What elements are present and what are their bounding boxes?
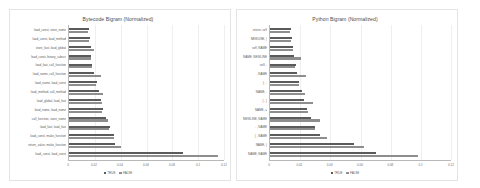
y-axis-label: load_fast, call_function [12, 62, 66, 71]
y-axis-label: NAME, = [239, 106, 267, 115]
bar-false [69, 119, 108, 121]
y-axis-label: store_fast, load_global [12, 44, 66, 53]
legend-bytecode: TRUE FALSE [12, 171, 224, 178]
x-axis-tick-label: 0.04 [117, 163, 123, 167]
y-axis-label: ( , NAME [239, 132, 267, 141]
y-axis-label: , NAME [239, 70, 267, 79]
bar-true [69, 37, 90, 39]
bar-group [69, 115, 224, 124]
bar-group [270, 26, 451, 35]
y-axis-label: load_name, load_name [12, 106, 66, 115]
bar-true [270, 134, 320, 136]
bar-group [270, 44, 451, 53]
bar-true [69, 72, 94, 74]
x-axis-tick-label: 0.06 [357, 163, 363, 167]
bar-group [270, 53, 451, 62]
bar-false [69, 84, 96, 86]
x-axis-tick-label: 0.06 [143, 163, 149, 167]
bar-group [270, 141, 451, 150]
bar-true [69, 28, 89, 30]
y-axis-label: ( , ) [239, 97, 267, 106]
bar-group [270, 62, 451, 71]
bar-true [270, 152, 376, 154]
y-axis-label: NEWLINE, ) [239, 35, 267, 44]
bar-group [69, 44, 224, 53]
bar-false [270, 49, 293, 51]
bar-true [270, 72, 297, 74]
y-axis-label: return_value, make_function [12, 141, 66, 150]
bar-true [69, 134, 114, 136]
bar-false [270, 102, 313, 104]
y-axis-label: self, . [239, 62, 267, 71]
x-axis-tick-label: 0.08 [169, 163, 175, 167]
bar-true [69, 46, 91, 48]
bar-true [270, 37, 292, 39]
legend-python: TRUE FALSE [239, 171, 451, 178]
bar-true [69, 143, 115, 145]
bar-true [69, 90, 99, 92]
bar-true [270, 55, 294, 57]
bar-group [270, 132, 451, 141]
bar-false [69, 128, 109, 130]
y-axis-labels-python: return, selfNEWLINE, )self, NAMENAME, NE… [239, 25, 269, 160]
bar-true [270, 117, 311, 119]
bar-true [270, 46, 293, 48]
bar-false [69, 155, 218, 157]
x-axis-bytecode: 00.020.040.060.080.10.12 [68, 160, 224, 171]
bar-false [69, 66, 92, 68]
bar-false [270, 111, 308, 113]
y-axis-label: call_function, store_name [12, 115, 66, 124]
y-axis-label: ) , : [239, 79, 267, 88]
bar-group [69, 88, 224, 97]
bar-true [270, 108, 307, 110]
gridline [451, 25, 452, 160]
bar-false [270, 146, 364, 148]
bar-true [69, 108, 103, 110]
bar-false [69, 137, 114, 139]
bar-group [69, 35, 224, 44]
bar-group [69, 26, 224, 35]
bar-true [270, 143, 354, 145]
bar-group [270, 124, 451, 133]
bar-group [270, 106, 451, 115]
bar-false [69, 102, 102, 104]
bar-group [69, 62, 224, 71]
chart-title-python: Python Bigram (Normalized) [239, 12, 451, 25]
legend-item-false: FALSE [346, 171, 359, 175]
bigram-charts-page: Bytecode Bigram (Normalized) load_const,… [0, 0, 480, 188]
x-axis-tick-label: 0 [67, 163, 69, 167]
bar-false [270, 84, 299, 86]
legend-label-false: FALSE [123, 171, 132, 175]
y-axis-label: NAME, ( [239, 141, 267, 150]
y-axis-label: load_name, load_const [12, 79, 66, 88]
legend-label-true: TRUE [107, 171, 115, 175]
x-axis-python: 00.020.040.060.080.10.12 [269, 160, 451, 171]
y-axis-label: load_const, make_function [12, 132, 66, 141]
bar-true [69, 152, 183, 154]
bar-true [69, 126, 110, 128]
bytecode-bigram-chart: Bytecode Bigram (Normalized) load_const,… [9, 9, 231, 181]
bar-group [69, 79, 224, 88]
legend-label-true: TRUE [334, 171, 342, 175]
chart-title-bytecode: Bytecode Bigram (Normalized) [12, 12, 224, 25]
bar-group [270, 79, 451, 88]
bar-group [270, 150, 451, 159]
legend-swatch-false-icon [119, 172, 121, 174]
bar-group [270, 97, 451, 106]
y-axis-label: load_const, binary_subscr [12, 53, 66, 62]
bar-true [69, 117, 106, 119]
bar-group [69, 141, 224, 150]
bar-group [69, 70, 224, 79]
bar-true [69, 64, 92, 66]
bar-false [69, 57, 91, 59]
x-axis-tick-label: 0.08 [387, 163, 393, 167]
bar-group [270, 88, 451, 97]
bar-group [270, 70, 451, 79]
y-axis-label: self, NAME [239, 44, 267, 53]
bar-group [69, 132, 224, 141]
bar-true [270, 64, 296, 66]
y-axis-label: load_const, store_name [12, 26, 66, 35]
bar-group [69, 53, 224, 62]
y-axis-label: . , NAME [239, 124, 267, 133]
bar-group [270, 35, 451, 44]
